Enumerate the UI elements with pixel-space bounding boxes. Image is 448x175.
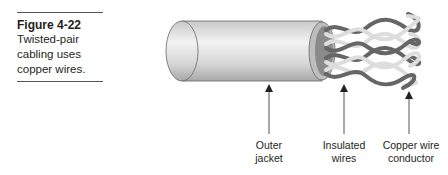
label-line: Outer	[249, 139, 289, 152]
label-copper-wire-conductor: Copper wire conductor	[380, 139, 442, 165]
wire-pairs	[326, 14, 419, 88]
label-arrows	[265, 84, 413, 134]
label-outer-jacket: Outer jacket	[249, 139, 289, 165]
label-line: jacket	[249, 152, 289, 165]
label-line: wires	[318, 152, 370, 165]
outer-jacket-shape	[166, 21, 335, 81]
label-line: conductor	[380, 152, 442, 165]
label-insulated-wires: Insulated wires	[318, 139, 370, 165]
label-line: Copper wire	[380, 139, 442, 152]
label-line: Insulated	[318, 139, 370, 152]
